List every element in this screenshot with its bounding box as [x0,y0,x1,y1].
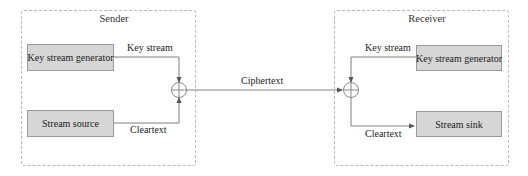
receiver-title: Receiver [408,13,445,24]
sender-key-stream-generator: Key stream generator [27,44,114,71]
sender-title: Sender [99,13,128,24]
ciphertext-label: Ciphertext [241,75,283,86]
stream-source: Stream source [27,110,114,137]
sender-cleartext-label: Cleartext [130,124,167,135]
stream-sink: Stream sink [416,111,502,137]
receiver-cleartext-label: Cleartext [365,128,402,139]
receiver-frame [334,10,509,166]
stream-cipher-diagram: Sender Key stream generator Stream sourc… [0,0,528,176]
sender-frame [21,10,196,166]
receiver-key-stream-generator: Key stream generator [416,45,502,71]
sender-key-stream-label: Key stream [127,42,173,53]
receiver-key-stream-label: Key stream [365,42,411,53]
